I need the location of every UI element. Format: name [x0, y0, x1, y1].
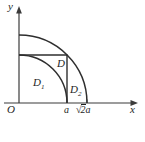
region-label-d2: D2 — [70, 84, 81, 98]
region-d2-base: D — [70, 83, 78, 95]
region-d2-subscript: 2 — [78, 90, 82, 98]
figure-canvas — [0, 0, 145, 142]
geometry-figure: y x O a √2a D1 D D2 — [0, 0, 145, 142]
x-axis-label: x — [130, 104, 135, 115]
region-label-d: D — [57, 58, 65, 69]
coefficient: a — [86, 105, 91, 115]
origin-label: O — [7, 104, 15, 115]
y-axis-arrow-icon — [16, 6, 22, 14]
radical-group: √2a — [76, 104, 91, 115]
region-d1-base: D — [33, 76, 41, 88]
region-d-base: D — [57, 57, 65, 69]
y-axis-label: y — [8, 1, 13, 12]
region-label-d1: D1 — [33, 77, 44, 91]
x-tick-label-sqrt2a: √2a — [76, 104, 91, 115]
region-d1-subscript: 1 — [41, 83, 45, 91]
x-tick-label-a: a — [64, 105, 69, 115]
